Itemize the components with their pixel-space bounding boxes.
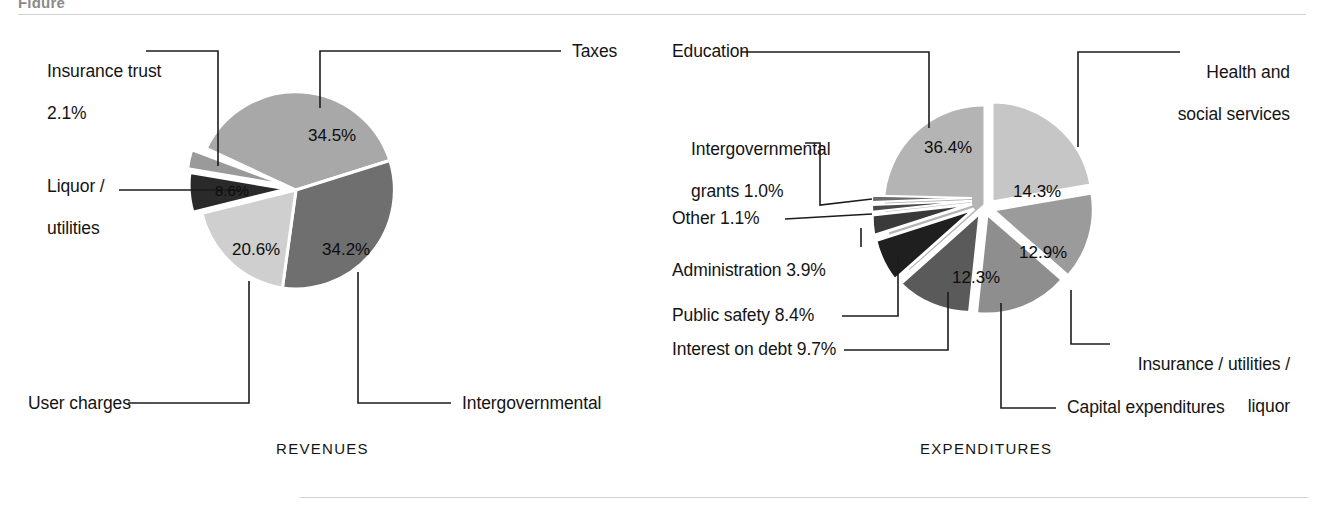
- label-insurance-util-liquor-line1: Insurance / utilities /: [1138, 354, 1290, 374]
- leader-line-taxes: [320, 51, 561, 108]
- label-user-charges: User charges: [28, 393, 131, 414]
- label-liquor-utilities-line2: utilities: [47, 218, 100, 238]
- label-health-line2: social services: [1178, 104, 1290, 124]
- value-intergovernmental: 34.2%: [322, 240, 370, 260]
- revenues-pie: [119, 51, 561, 403]
- label-public-safety: Public safety 8.4%: [672, 305, 814, 326]
- leader-line-user-charges: [128, 281, 249, 403]
- value-health-social: 14.3%: [1013, 182, 1061, 202]
- label-insurance-util-liquor-line2: liquor: [1248, 396, 1290, 416]
- caption-revenues: REVENUES: [276, 440, 369, 457]
- label-insurance-trust: Insurance trust 2.1%: [28, 40, 161, 145]
- value-capital-expenditures: 12.3%: [952, 268, 1000, 288]
- value-user-charges: 20.6%: [232, 240, 280, 260]
- label-capital-expenditures: Capital expenditures: [1067, 397, 1225, 418]
- label-administration: Administration 3.9%: [672, 260, 826, 281]
- caption-expenditures: EXPENDITURES: [920, 440, 1052, 457]
- label-health-social-services: Health and social services: [1000, 41, 1290, 146]
- label-intergov-grants-value: grants 1.0%: [691, 181, 783, 201]
- value-education: 36.4%: [924, 138, 972, 158]
- label-intergov-grants-line1: Intergovernmental: [691, 139, 830, 159]
- label-interest-on-debt: Interest on debt 9.7%: [672, 339, 836, 360]
- label-other: Other 1.1%: [672, 208, 760, 229]
- label-health-line1: Health and: [1206, 62, 1290, 82]
- label-insurance-trust-line1: Insurance trust: [47, 61, 161, 81]
- value-taxes: 34.5%: [308, 126, 356, 146]
- label-taxes: Taxes: [572, 41, 617, 62]
- figure-page: Figure: [0, 0, 1318, 511]
- value-liquor-utilities: 8.6%: [215, 182, 249, 199]
- label-liquor-utilities-line1: Liquor /: [47, 176, 105, 196]
- label-insurance-utilities-liquor: Insurance / utilities / liquor: [1000, 333, 1290, 438]
- label-insurance-trust-value: 2.1%: [47, 103, 87, 123]
- label-intergovernmental: Intergovernmental: [462, 393, 601, 414]
- value-insurance-utilities-liquor: 12.9%: [1019, 243, 1067, 263]
- label-education: Education: [672, 41, 749, 62]
- leader-line-education: [741, 52, 929, 128]
- leader-line-intergovernmental: [358, 272, 451, 403]
- label-liquor-utilities: Liquor / utilities: [28, 155, 105, 260]
